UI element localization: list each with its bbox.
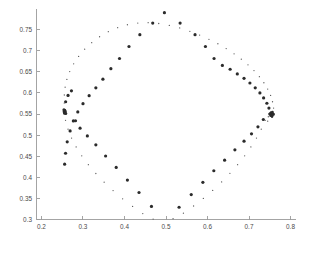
data-point [272, 101, 273, 102]
data-point [158, 23, 159, 24]
data-point [265, 120, 266, 121]
data-point [268, 116, 269, 117]
data-point [262, 118, 265, 121]
y-tick-label: 0.7 [23, 47, 32, 54]
data-point [137, 191, 140, 194]
data-point [69, 129, 72, 132]
y-tick-label: 0.55 [20, 110, 33, 117]
series-left-cusp-cluster [62, 108, 67, 115]
data-point [190, 193, 193, 196]
x-tick-label: 0.2 [37, 223, 46, 230]
data-point [172, 218, 173, 219]
data-point [221, 64, 224, 67]
data-point [248, 81, 251, 84]
data-point [75, 146, 76, 147]
data-point [81, 102, 84, 105]
data-point [64, 152, 67, 155]
data-series-group [62, 11, 274, 220]
data-point [152, 218, 153, 219]
y-tick-label: 0.3 [23, 216, 32, 223]
data-point [78, 56, 79, 57]
data-point [118, 57, 121, 60]
data-point [269, 112, 272, 115]
data-point [201, 181, 204, 184]
data-point [271, 115, 274, 118]
data-point [65, 120, 66, 121]
data-point [233, 53, 234, 54]
data-point [236, 72, 239, 75]
data-point [66, 140, 69, 143]
data-point [112, 190, 113, 191]
series-inner-curve [63, 11, 272, 209]
data-point [132, 206, 133, 207]
x-tick-label: 0.3 [79, 223, 88, 230]
data-point [117, 27, 118, 28]
data-point [263, 82, 264, 83]
data-point [179, 27, 180, 28]
data-point [86, 134, 89, 137]
data-point [212, 57, 215, 60]
y-tick-label: 0.75 [20, 26, 33, 33]
data-point [193, 33, 196, 36]
data-point [64, 112, 67, 115]
data-point [267, 121, 268, 122]
data-point [104, 182, 105, 183]
data-point [122, 198, 123, 199]
data-point [115, 166, 118, 169]
data-point [208, 39, 209, 40]
data-point [199, 34, 200, 35]
data-point [250, 132, 253, 135]
data-point [221, 181, 222, 182]
x-tick-label: 0.8 [286, 223, 295, 230]
data-point [169, 25, 170, 26]
data-point [137, 22, 138, 23]
data-point [88, 164, 89, 165]
data-point [189, 31, 190, 32]
data-point [127, 45, 130, 48]
data-point [74, 119, 77, 122]
data-point [193, 205, 194, 206]
data-point [267, 106, 270, 109]
data-point [204, 45, 207, 48]
data-point [237, 164, 238, 165]
data-point [62, 108, 65, 111]
data-point [69, 71, 70, 72]
data-point [273, 107, 274, 108]
data-point [226, 48, 227, 49]
series-outer-curve [64, 22, 275, 220]
data-point [101, 78, 104, 81]
data-point [66, 94, 69, 97]
data-point [212, 169, 215, 172]
data-point [91, 42, 92, 43]
data-point [265, 102, 268, 105]
data-point [272, 113, 275, 116]
data-point [71, 137, 72, 138]
data-point [217, 43, 218, 44]
axes [37, 9, 296, 220]
data-point [256, 125, 259, 128]
data-point [67, 129, 68, 130]
data-point [212, 190, 213, 191]
data-point [76, 110, 79, 113]
data-point [99, 36, 100, 37]
y-tick-label: 0.65 [20, 68, 33, 75]
y-tick-label: 0.6 [23, 89, 32, 96]
data-point [254, 86, 257, 89]
x-axis-ticks: 0.20.30.40.50.60.70.8 [37, 216, 295, 230]
data-point [163, 11, 166, 14]
data-point [242, 140, 245, 143]
data-point [247, 64, 248, 65]
data-point [127, 24, 128, 25]
data-point [148, 22, 149, 23]
data-point [66, 79, 67, 80]
data-point [233, 148, 236, 151]
data-point [63, 163, 66, 166]
plot-canvas: 0.20.30.40.50.60.70.8 0.30.350.40.450.50… [0, 0, 311, 256]
data-point [95, 173, 96, 174]
data-point [88, 94, 91, 97]
x-tick-label: 0.4 [120, 223, 129, 230]
scatter-plot-figure: 0.20.30.40.50.60.70.8 0.30.350.40.450.50… [0, 0, 311, 256]
data-point [81, 155, 82, 156]
data-point [229, 68, 232, 71]
x-tick-label: 0.5 [162, 223, 171, 230]
